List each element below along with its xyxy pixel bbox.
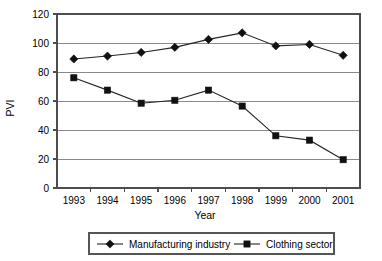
x-tick-label: 2000 [298, 195, 321, 206]
y-axis-title: PVI [4, 100, 16, 117]
y-tick-label: 0 [43, 183, 49, 194]
legend-marker-square [244, 241, 250, 247]
x-tick-label: 1999 [265, 195, 288, 206]
data-point [205, 87, 211, 93]
x-tick-label: 1994 [96, 195, 119, 206]
y-tick-label: 40 [38, 125, 50, 136]
pvi-line-chart: 020406080100120 199319941995199619971998… [0, 0, 382, 261]
x-tick-label: 1996 [164, 195, 187, 206]
y-tick-label: 60 [38, 96, 50, 107]
data-point [239, 103, 245, 109]
y-tick-label: 100 [32, 38, 49, 49]
legend-entries: Manufacturing industryClothing sector [97, 239, 333, 250]
x-tick-label: 1995 [130, 195, 153, 206]
y-tick-label: 120 [32, 9, 49, 20]
data-point [340, 157, 346, 163]
data-point [273, 133, 279, 139]
data-point [306, 137, 312, 143]
x-tick-label: 2001 [332, 195, 355, 206]
x-axis-title: Year [194, 209, 216, 221]
x-axis-ticks: 199319941995199619971998199920002001 [63, 188, 355, 206]
legend-label: Manufacturing industry [129, 239, 230, 250]
data-point [71, 75, 77, 81]
x-tick-label: 1993 [63, 195, 86, 206]
y-tick-label: 80 [38, 67, 50, 78]
y-tick-label: 20 [38, 154, 50, 165]
data-point [172, 97, 178, 103]
legend-label: Clothing sector [266, 239, 333, 250]
x-tick-label: 1998 [231, 195, 254, 206]
x-tick-label: 1997 [197, 195, 220, 206]
y-axis-ticks: 020406080100120 [32, 9, 57, 194]
chart-legend: Manufacturing industryClothing sector [89, 233, 334, 254]
data-point [138, 100, 144, 106]
data-point [104, 87, 110, 93]
chart-container: 020406080100120 199319941995199619971998… [0, 0, 382, 261]
